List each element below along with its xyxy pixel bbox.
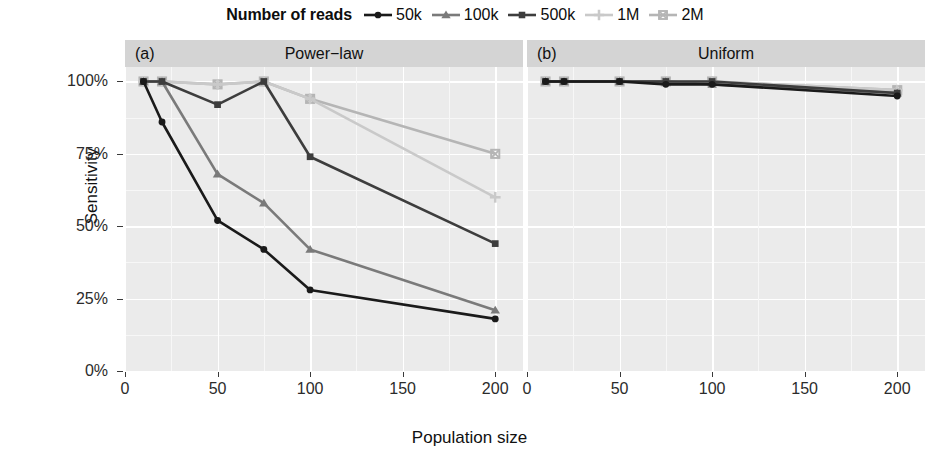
series-layer bbox=[527, 67, 925, 371]
series-line bbox=[144, 81, 496, 243]
legend-item-label: 50k bbox=[396, 6, 422, 24]
panel-title: Power−law bbox=[125, 45, 523, 63]
series-line bbox=[144, 81, 496, 310]
x-tick-label-b: 100 bbox=[699, 380, 726, 398]
legend-item-50k[interactable]: 50k bbox=[363, 6, 422, 24]
chart-legend: Number of reads 50k100k500k1M2M bbox=[0, 0, 939, 30]
x-tick-label-a: 50 bbox=[209, 380, 227, 398]
x-axis-title: Population size bbox=[0, 428, 939, 448]
data-point-circle bbox=[662, 81, 669, 88]
data-point-square bbox=[260, 78, 267, 85]
series-line bbox=[144, 81, 496, 153]
y-tick-label: 0% bbox=[38, 362, 108, 380]
y-tick-label: 25% bbox=[38, 290, 108, 308]
panel-body-b bbox=[527, 67, 925, 371]
x-tick-label-b: 50 bbox=[611, 380, 629, 398]
y-tick-label: 100% bbox=[38, 72, 108, 90]
legend-item-2m[interactable]: 2M bbox=[648, 6, 703, 24]
x-tick-label-b: 150 bbox=[791, 380, 818, 398]
legend-title: Number of reads bbox=[226, 6, 352, 24]
data-point-square bbox=[214, 101, 221, 108]
legend-item-label: 500k bbox=[540, 6, 575, 24]
data-point-circle bbox=[894, 93, 901, 100]
series-50k bbox=[140, 78, 499, 322]
data-point-circle bbox=[140, 78, 147, 85]
y-tick-mark bbox=[117, 81, 123, 82]
y-tick-label: 75% bbox=[38, 145, 108, 163]
data-point-circle bbox=[616, 78, 623, 85]
y-tick-mark bbox=[117, 154, 123, 155]
x-tick-label-b: 200 bbox=[884, 380, 911, 398]
data-point-circle bbox=[159, 119, 166, 126]
gridline-horizontal bbox=[125, 371, 523, 372]
y-tick-mark bbox=[117, 299, 123, 300]
panel-body-a bbox=[125, 67, 523, 371]
x-tick-label-a: 150 bbox=[389, 380, 416, 398]
panel-strip-a: (a)Power−law bbox=[125, 40, 523, 67]
figure-root: Number of reads 50k100k500k1M2M Sensitiv… bbox=[0, 0, 939, 450]
square-marker bbox=[507, 6, 537, 24]
x-tick-label-a: 100 bbox=[297, 380, 324, 398]
data-point-square bbox=[307, 153, 314, 160]
data-point-square bbox=[492, 240, 499, 247]
data-point-circle bbox=[561, 78, 568, 85]
crossed-square-marker bbox=[648, 6, 678, 24]
data-point-circle bbox=[214, 217, 221, 224]
y-axis-title: Sensitivity bbox=[82, 86, 102, 286]
data-point-plus bbox=[490, 192, 501, 203]
panel-strip-b: (b)Uniform bbox=[527, 40, 925, 67]
data-point-circle bbox=[492, 315, 499, 322]
legend-items: 50k100k500k1M2M bbox=[363, 6, 713, 24]
circle-marker bbox=[363, 6, 393, 24]
series-2m bbox=[139, 77, 499, 158]
panel-tag: (a) bbox=[135, 45, 155, 63]
y-tick-mark bbox=[117, 371, 123, 372]
gridline-horizontal bbox=[527, 371, 925, 372]
data-point-circle bbox=[709, 81, 716, 88]
panel-title: Uniform bbox=[527, 45, 925, 63]
legend-item-500k[interactable]: 500k bbox=[507, 6, 575, 24]
y-tick-mark bbox=[117, 226, 123, 227]
x-tick-label-b: 0 bbox=[523, 380, 532, 398]
series-line bbox=[144, 81, 496, 318]
y-tick-label: 50% bbox=[38, 217, 108, 235]
series-layer bbox=[125, 67, 523, 371]
legend-item-1m[interactable]: 1M bbox=[584, 6, 639, 24]
data-point-square bbox=[159, 78, 166, 85]
plot-area: Sensitivity Population size 0%25%50%75%1… bbox=[0, 30, 939, 450]
legend-item-label: 2M bbox=[681, 6, 703, 24]
plus-marker bbox=[584, 6, 614, 24]
x-tick-label-a: 0 bbox=[121, 380, 130, 398]
x-tick-label-a: 200 bbox=[482, 380, 509, 398]
series-100k bbox=[139, 77, 500, 314]
data-point-circle bbox=[260, 246, 267, 253]
legend-item-label: 1M bbox=[617, 6, 639, 24]
data-point-circle bbox=[307, 286, 314, 293]
legend-item-100k[interactable]: 100k bbox=[431, 6, 499, 24]
panel-tag: (b) bbox=[537, 45, 557, 63]
data-point-circle bbox=[542, 78, 549, 85]
triangle-marker bbox=[431, 6, 461, 24]
legend-item-label: 100k bbox=[464, 6, 499, 24]
